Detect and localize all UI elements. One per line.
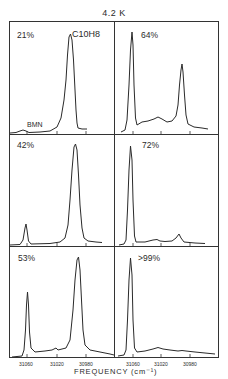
panel-label-64: 64% [141,30,158,40]
tick-left-1: 31060 [19,361,33,367]
panel-label-42: 42% [17,140,34,150]
spectrum-42 [10,144,102,245]
spectrum-53 [12,257,114,357]
tick-left-2: 31020 [50,361,64,367]
spectra-plot [0,0,228,379]
annotation-naphthalene: C10H8 [72,29,100,39]
spectrum-21 [10,34,87,133]
panel-label-53: 53% [18,253,35,263]
tick-right-3: 30980 [183,361,197,367]
spectrum-72 [119,146,205,245]
panel-label-72: 72% [142,140,159,150]
spectra-figure: 4.2 K 21% [0,0,228,379]
spectrum-64 [121,32,208,132]
tick-marks [27,131,190,357]
x-axis-label: FREQUENCY (cm⁻¹) [74,367,157,376]
panel-label-99: >99% [138,253,160,263]
panel-label-21: 21% [17,30,34,40]
spectrum-99 [118,258,215,356]
annotation-bmn: BMN [27,121,43,128]
